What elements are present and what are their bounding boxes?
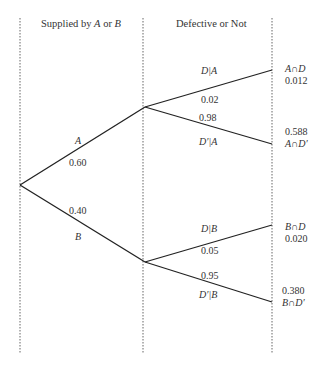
header-b: B [115, 18, 121, 29]
label-D-given-B: D|B [201, 223, 217, 234]
header-prefix: Supplied by [41, 18, 94, 29]
prob-A: 0.60 [69, 157, 87, 168]
label-D-given-A: D|A [201, 65, 217, 76]
outcome-A-and-D-prob: 0.012 [285, 75, 308, 86]
label-A: A [75, 135, 81, 146]
prob-D-given-B: 0.05 [201, 245, 219, 256]
outcome-A-and-D: A∩D [285, 63, 306, 74]
outcome-A-and-Dprime: A∩D′ [285, 138, 308, 149]
outcome-A-and-Dprime-prob: 0.588 [285, 126, 308, 137]
prob-Dprime-given-B: 0.95 [201, 270, 219, 281]
header-supplied-by: Supplied by A or B [41, 18, 121, 29]
label-B: B [75, 231, 81, 242]
header-defective-or-not: Defective or Not [176, 18, 247, 29]
prob-B: 0.40 [69, 205, 87, 216]
branch-A [20, 107, 145, 185]
outcome-B-and-Dprime: B∩D′ [282, 297, 305, 308]
outcome-B-and-D: B∩D [285, 221, 306, 232]
tree-diagram-lines [0, 0, 325, 367]
label-Dprime-given-A: D′|A [199, 136, 217, 147]
prob-Dprime-given-A: 0.98 [199, 112, 217, 123]
outcome-B-and-D-prob: 0.020 [285, 233, 308, 244]
header-mid: or [101, 18, 115, 29]
label-Dprime-given-B: D′|B [199, 289, 217, 300]
branch-B [20, 185, 145, 262]
prob-D-given-A: 0.02 [201, 94, 219, 105]
outcome-B-and-Dprime-prob: 0.380 [282, 285, 305, 296]
